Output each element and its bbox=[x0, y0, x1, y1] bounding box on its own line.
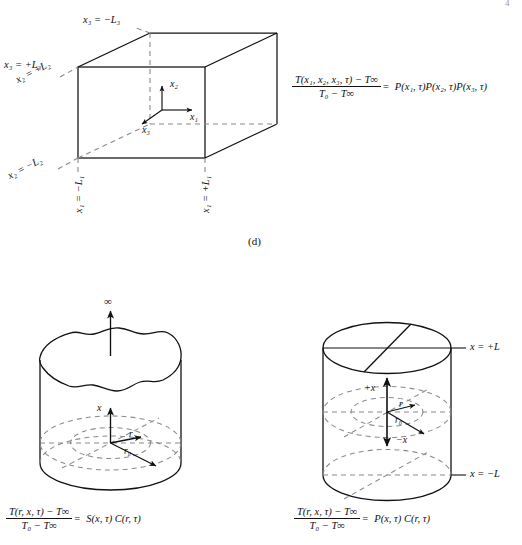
label-x1-negative-L1: x₁ = −L₁ bbox=[74, 176, 85, 213]
equation-finite-cylinder: T(r, x, τ) − T∞ T₀ − T∞ = P(x, τ) C(r, τ… bbox=[294, 506, 430, 531]
equation-finite-equals: = bbox=[360, 513, 370, 524]
label-right-cylinder-radius-r: r bbox=[399, 400, 403, 410]
equation-semi-infinite-equals: = bbox=[72, 513, 82, 524]
label-right-cylinder-radius-r0: r₀ bbox=[395, 416, 402, 426]
equation-finite-denominator: T₀ − T∞ bbox=[294, 519, 360, 531]
figure-page: 4 x₃ = −L₃ x₃ = +L₃ x₂ = +L₂ x₂ = −L₂ x₁… bbox=[0, 0, 522, 545]
equation-box-numerator: T(x₁, x₂, x₃, τ) − T∞ bbox=[292, 74, 381, 87]
figure-caption-d: (d) bbox=[248, 235, 261, 247]
label-x3-negative-L3: x₃ = −L₃ bbox=[83, 15, 120, 26]
label-x-positive-L: x = +L bbox=[470, 342, 500, 353]
label-left-cylinder-radius-r: r bbox=[129, 430, 133, 440]
axis-label-x2: x₂ bbox=[170, 79, 178, 89]
label-infinity: ∞ bbox=[104, 296, 112, 307]
box-hidden-edges bbox=[58, 27, 277, 176]
equation-finite-numerator: T(r, x, τ) − T∞ bbox=[294, 506, 360, 519]
equation-box-rhs: P(x₁, τ)P(x₂, τ)P(x₃, τ) bbox=[391, 81, 487, 92]
equation-semi-infinite-numerator: T(r, x, τ) − T∞ bbox=[6, 506, 72, 519]
label-minus-x: −x bbox=[396, 435, 407, 445]
label-x1-positive-L1: x₁ = +L₁ bbox=[201, 176, 212, 213]
equation-semi-infinite-denominator: T₀ − T∞ bbox=[6, 519, 72, 531]
equation-semi-infinite-cylinder: T(r, x, τ) − T∞ T₀ − T∞ = S(x, τ) C(r, τ… bbox=[6, 506, 141, 531]
label-left-cylinder-radius-r0: r₀ bbox=[124, 447, 131, 457]
equation-box-equals: = bbox=[381, 81, 391, 92]
page-number: 4 bbox=[505, 0, 510, 8]
axis-label-x1: x₁ bbox=[190, 112, 198, 122]
label-left-cylinder-axis-x: x bbox=[97, 403, 101, 413]
equation-finite-rhs: P(x, τ) C(r, τ) bbox=[370, 513, 430, 524]
label-x-negative-L: x = −L bbox=[470, 469, 500, 480]
axis-label-x3: x₃ bbox=[142, 125, 150, 135]
equation-box-denominator: T₀ − T∞ bbox=[292, 87, 381, 99]
equation-box: T(x₁, x₂, x₃, τ) − T∞ T₀ − T∞ = P(x₁, τ)… bbox=[292, 74, 487, 99]
label-plus-x: +x bbox=[364, 383, 375, 393]
box-solid-edges bbox=[78, 33, 277, 158]
equation-semi-infinite-rhs: S(x, τ) C(r, τ) bbox=[82, 513, 140, 524]
